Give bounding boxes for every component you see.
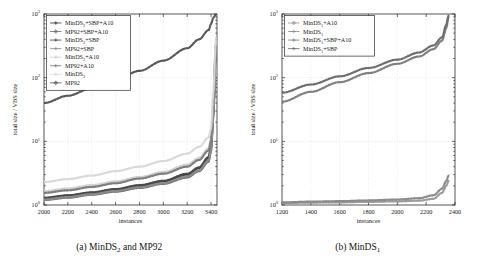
svg-text:MP92+SBP: MP92+SBP <box>65 46 95 52</box>
caption-b-prefix: (b) <box>335 242 346 252</box>
caption-a-sub: 2 <box>117 246 121 254</box>
caption-panel-b: (b) MinDS1 <box>239 232 477 262</box>
svg-text:1800: 1800 <box>362 208 374 215</box>
svg-text:103: 103 <box>32 9 41 17</box>
svg-text:instances: instances <box>119 217 143 224</box>
svg-text:1200: 1200 <box>276 208 288 215</box>
svg-text:2400: 2400 <box>449 208 461 215</box>
svg-text:101: 101 <box>32 137 40 145</box>
svg-text:2200: 2200 <box>62 208 74 215</box>
caption-a-prefix: (a) <box>76 242 87 252</box>
svg-text:102: 102 <box>32 73 40 81</box>
svg-text:102: 102 <box>270 73 278 81</box>
caption-b-main: MinDS <box>349 242 377 252</box>
svg-text:MP92: MP92 <box>65 80 80 86</box>
svg-text:total size / VBS size: total size / VBS size <box>11 83 18 135</box>
caption-b-sub: 1 <box>377 246 381 254</box>
plot-b-svg: 1200140016001800200022002400100101102103… <box>238 0 476 230</box>
svg-text:3000: 3000 <box>157 208 169 215</box>
svg-text:MP92+A10: MP92+A10 <box>65 63 94 69</box>
chart-panel-a: 2000220024002600280030003200340010010110… <box>0 0 238 230</box>
svg-text:3200: 3200 <box>181 208 193 215</box>
svg-text:2000: 2000 <box>391 208 403 215</box>
figure-container: 2000220024002600280030003200340010010110… <box>0 0 477 267</box>
svg-text:103: 103 <box>270 9 279 17</box>
svg-text:total size / VBS size: total size / VBS size <box>249 83 256 135</box>
svg-text:3400: 3400 <box>205 208 217 215</box>
caption-a-suffix: and MP92 <box>121 242 163 252</box>
svg-text:2800: 2800 <box>133 208 145 215</box>
chart-panel-b: 1200140016001800200022002400100101102103… <box>238 0 476 230</box>
caption-row: (a) MinDS2 and MP92 (b) MinDS1 <box>0 232 477 262</box>
svg-text:2200: 2200 <box>420 208 432 215</box>
caption-a-main: MinDS <box>89 242 117 252</box>
plot-a-svg: 2000220024002600280030003200340010010110… <box>0 0 238 230</box>
svg-text:instances: instances <box>357 217 381 224</box>
svg-text:2600: 2600 <box>109 208 121 215</box>
caption-panel-a: (a) MinDS2 and MP92 <box>0 232 239 262</box>
svg-text:2400: 2400 <box>86 208 98 215</box>
svg-text:MP92+SBP+A10: MP92+SBP+A10 <box>65 29 108 35</box>
svg-text:101: 101 <box>270 137 278 145</box>
svg-text:2000: 2000 <box>38 208 50 215</box>
svg-text:1600: 1600 <box>333 208 345 215</box>
svg-text:1400: 1400 <box>305 208 317 215</box>
